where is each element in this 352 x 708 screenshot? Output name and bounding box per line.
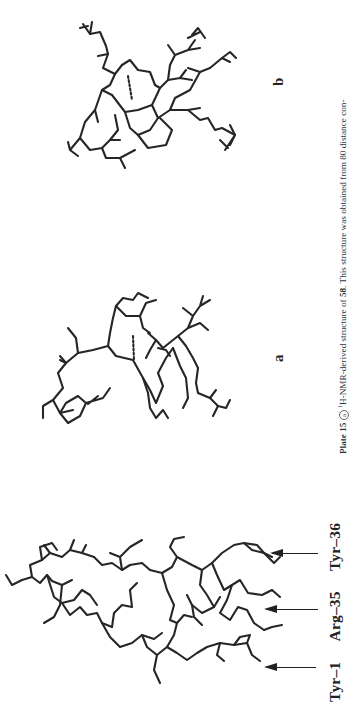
molecule-a-drawing <box>38 278 238 443</box>
caption-text-2: . This structure was obtained from 80 di… <box>338 100 348 288</box>
caption-nucleus-superscript: 1 <box>337 405 343 408</box>
label-tyr-1: Tyr–1 <box>326 662 344 702</box>
figure-caption: Plate 15 a 1H-NMR-derived structure of 5… <box>337 100 349 454</box>
arrow-tyr-1 <box>266 667 316 668</box>
caption-plate-number: Plate 15 <box>338 423 348 454</box>
molecule-b-drawing <box>40 10 240 180</box>
structure-panel-a <box>38 278 238 443</box>
label-arg-35: Arg–35 <box>326 591 344 641</box>
arrow-arg-35 <box>266 609 318 610</box>
arrow-tyr-36 <box>272 553 318 554</box>
residue-labels: Tyr–1 Arg–35 Tyr–36 <box>326 523 344 702</box>
molecule-peptide-drawing <box>2 535 287 705</box>
structure-panel-b <box>40 10 240 180</box>
caption-compound-number: 58 <box>338 288 348 297</box>
caption-text-1: H-NMR-derived structure of <box>338 297 348 405</box>
panel-label-a: a <box>270 355 287 363</box>
panel-label-b: b <box>270 78 287 86</box>
caption-part-marker: a <box>339 410 349 420</box>
structure-peptide-full <box>2 535 287 705</box>
label-tyr-36: Tyr–36 <box>326 523 344 571</box>
